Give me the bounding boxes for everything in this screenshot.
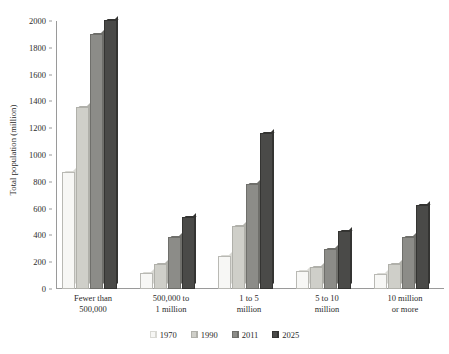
bar-front [232, 226, 245, 289]
x-axis-label-line: 10 million [366, 293, 444, 304]
y-tick-label: 200 [33, 257, 46, 267]
plot-area [56, 21, 444, 289]
y-tick-mark [49, 208, 52, 209]
bar-slot [324, 21, 338, 289]
bar-slot [104, 21, 118, 289]
bar[interactable] [232, 228, 243, 289]
legend-swatch-icon [191, 332, 198, 338]
y-tick-mark [49, 181, 52, 182]
chart-legend: 1970199020112025 [0, 330, 449, 340]
legend-label: 2025 [282, 330, 299, 340]
legend-swatch-icon [272, 332, 279, 338]
bar-slot [374, 21, 388, 289]
bar-slot [338, 21, 352, 289]
bar-front [296, 271, 309, 289]
bar[interactable] [154, 266, 165, 289]
bar[interactable] [388, 266, 399, 289]
legend-swatch-icon [232, 332, 239, 338]
y-tick-mark [49, 47, 52, 48]
legend-label: 1970 [160, 330, 177, 340]
bar-groups [56, 21, 444, 289]
bar-front [246, 184, 259, 289]
legend-item[interactable]: 1970 [150, 330, 177, 340]
bar-front [402, 237, 415, 289]
y-tick-label: 1600 [29, 70, 46, 80]
legend-item[interactable]: 2011 [232, 330, 259, 340]
y-tick-label: 400 [33, 230, 46, 240]
bar[interactable] [168, 239, 179, 289]
bar[interactable] [296, 273, 307, 289]
bar-chart: Total population (million) 0200400600800… [0, 0, 449, 354]
bar[interactable] [402, 239, 413, 289]
y-tick-mark [49, 128, 52, 129]
y-axis-ticks: 0200400600800100012001400160018002000 [0, 21, 52, 289]
bar-slot [76, 21, 90, 289]
y-tick-label: 0 [42, 284, 46, 294]
bar-front [62, 172, 75, 289]
bar[interactable] [246, 186, 257, 289]
bar-front [154, 264, 167, 289]
bar-slot [260, 21, 274, 289]
bar[interactable] [416, 207, 427, 289]
x-axis-label: 5 to 10million [288, 293, 366, 315]
y-tick-label: 600 [33, 204, 46, 214]
bar[interactable] [324, 251, 335, 289]
bar[interactable] [260, 135, 271, 289]
x-axis-label: Fewer than500,000 [54, 293, 132, 315]
bar-front [90, 34, 103, 289]
bar-front [388, 264, 401, 289]
x-axis-label-line: 500,000 [54, 304, 132, 315]
bar-front [182, 217, 195, 289]
bar-group [140, 21, 202, 289]
bar[interactable] [90, 36, 101, 289]
bar-slot [310, 21, 324, 289]
bar[interactable] [374, 276, 385, 289]
y-tick-mark [49, 101, 52, 102]
bar-slot [416, 21, 430, 289]
bar-group [218, 21, 280, 289]
y-tick-label: 1200 [29, 123, 46, 133]
y-tick-mark [49, 289, 52, 290]
x-axis-labels: Fewer than500,000500,000 to1 million1 to… [56, 293, 444, 325]
legend-swatch-icon [150, 332, 157, 338]
y-tick-mark [49, 262, 52, 263]
bar-slot [232, 21, 246, 289]
bar[interactable] [76, 109, 87, 289]
bar-front [140, 273, 153, 289]
x-axis-label-line: million [288, 304, 366, 315]
bar-slot [246, 21, 260, 289]
bar-slot [140, 21, 154, 289]
y-tick-mark [49, 155, 52, 156]
x-axis-label: 1 to 5million [210, 293, 288, 315]
bar-slot [296, 21, 310, 289]
bar-front [338, 231, 351, 289]
bar-slot [62, 21, 76, 289]
x-axis-label-line: 500,000 to [132, 293, 210, 304]
bar[interactable] [104, 22, 115, 289]
bar-group [296, 21, 358, 289]
legend-item[interactable]: 2025 [272, 330, 299, 340]
x-axis-label-line: 1 to 5 [210, 293, 288, 304]
x-axis-label-line: 5 to 10 [288, 293, 366, 304]
y-tick-mark [49, 21, 52, 22]
bar[interactable] [218, 258, 229, 289]
bar[interactable] [182, 219, 193, 289]
y-tick-label: 800 [33, 177, 46, 187]
legend-swatch-side [155, 332, 157, 337]
bar[interactable] [140, 275, 151, 289]
bar-front [324, 249, 337, 289]
bar-slot [168, 21, 182, 289]
bar[interactable] [338, 233, 349, 289]
bar-front [76, 107, 89, 289]
legend-label: 1990 [201, 330, 218, 340]
bar-slot [154, 21, 168, 289]
legend-item[interactable]: 1990 [191, 330, 218, 340]
bar[interactable] [310, 269, 321, 289]
bar-front [416, 205, 429, 289]
bar[interactable] [62, 174, 73, 289]
x-axis-label: 10 millionor more [366, 293, 444, 315]
x-axis-label-line: million [210, 304, 288, 315]
bar-slot [218, 21, 232, 289]
x-axis-label-line: Fewer than [54, 293, 132, 304]
bar-group [62, 21, 124, 289]
